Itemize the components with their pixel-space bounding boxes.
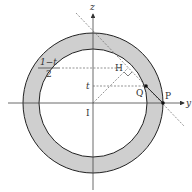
point-q [144, 84, 148, 88]
label-h: H [115, 63, 123, 73]
diagram-canvas: z y I H Q P 1−t 2 t [0, 0, 192, 192]
right-angle-mark [124, 72, 132, 76]
point-p [161, 101, 165, 105]
label-t: t [86, 81, 90, 91]
label-p: P [165, 91, 171, 101]
label-i: I [86, 108, 90, 118]
label-fraction-num: 1−t [40, 57, 57, 67]
y-axis-label: y [185, 98, 192, 108]
segment-ih [93, 68, 128, 103]
label-q: Q [136, 88, 143, 98]
z-axis-label: z [89, 2, 95, 12]
tangent-line [76, 13, 184, 126]
label-fraction-den: 2 [46, 69, 52, 79]
